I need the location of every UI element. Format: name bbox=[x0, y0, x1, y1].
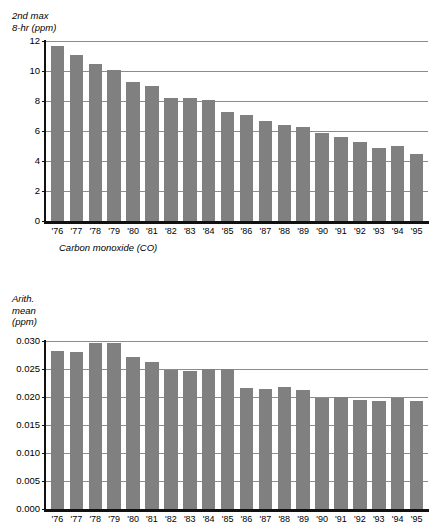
y-tick-label: 0.005 bbox=[7, 475, 40, 486]
chart1-series-caption: Carbon monoxide (CO) bbox=[59, 242, 157, 253]
bar bbox=[70, 55, 84, 222]
y-axis-spine bbox=[44, 340, 47, 511]
chart2-plot-area: 0.0000.0050.0100.0150.0200.0250.030'76'7… bbox=[46, 341, 428, 509]
y-tick-label: 4 bbox=[10, 155, 40, 166]
y-tick-label: 0.010 bbox=[7, 447, 40, 458]
bar bbox=[391, 398, 405, 509]
y-tick-label: 8 bbox=[10, 95, 40, 106]
bar bbox=[164, 370, 178, 509]
bar bbox=[107, 343, 121, 509]
bar bbox=[51, 351, 65, 509]
y-tick-label: 0.015 bbox=[7, 419, 40, 430]
bar bbox=[126, 357, 140, 509]
bar bbox=[126, 82, 140, 222]
gridline bbox=[46, 101, 428, 102]
bar bbox=[145, 86, 159, 221]
y-tick-label: 0.020 bbox=[7, 391, 40, 402]
gridline bbox=[46, 191, 428, 192]
bar bbox=[296, 390, 310, 509]
bar bbox=[391, 146, 405, 221]
bar bbox=[89, 64, 103, 221]
gridline bbox=[46, 425, 428, 426]
gridline bbox=[46, 71, 428, 72]
bar bbox=[372, 401, 386, 509]
bar bbox=[410, 154, 424, 222]
bar bbox=[353, 142, 367, 221]
chart1-plot-area: 024681012'76'77'78'79'80'81'82'83'84'85'… bbox=[46, 41, 428, 221]
gridline bbox=[46, 341, 428, 342]
bar bbox=[315, 398, 329, 509]
bar bbox=[51, 46, 65, 221]
y-axis-spine bbox=[44, 40, 47, 223]
bar bbox=[221, 112, 235, 222]
bar bbox=[240, 115, 254, 222]
bar bbox=[278, 387, 292, 509]
x-axis-spine bbox=[44, 221, 429, 224]
y-tick-label: 12 bbox=[10, 35, 40, 46]
bar bbox=[353, 400, 367, 509]
bar bbox=[240, 388, 254, 509]
bar bbox=[70, 352, 84, 509]
chart1-y-axis-title: 2nd max 8-hr (ppm) bbox=[12, 10, 102, 33]
gridline bbox=[46, 369, 428, 370]
bar bbox=[202, 369, 216, 509]
y-tick-label: 0.030 bbox=[7, 335, 40, 346]
x-tick-label: '95 bbox=[406, 514, 428, 524]
bar bbox=[183, 98, 197, 221]
gridline bbox=[46, 453, 428, 454]
bar bbox=[259, 389, 273, 509]
bar bbox=[164, 98, 178, 221]
y-tick-label: 2 bbox=[10, 185, 40, 196]
gridline bbox=[46, 131, 428, 132]
bar bbox=[278, 125, 292, 221]
gridline bbox=[46, 41, 428, 42]
bar bbox=[410, 401, 424, 509]
gridline bbox=[46, 161, 428, 162]
bar bbox=[259, 121, 273, 222]
gridline bbox=[46, 397, 428, 398]
y-tick-label: 0 bbox=[10, 215, 40, 226]
bar bbox=[221, 369, 235, 509]
bar bbox=[334, 137, 348, 221]
bar bbox=[372, 148, 386, 222]
y-tick-label: 0.000 bbox=[7, 503, 40, 514]
bar bbox=[89, 343, 103, 509]
bar bbox=[145, 362, 159, 509]
chart2-y-axis-title: Arith. mean (ppm) bbox=[12, 293, 102, 328]
bar bbox=[296, 127, 310, 222]
y-tick-label: 10 bbox=[10, 65, 40, 76]
y-tick-label: 0.025 bbox=[7, 363, 40, 374]
bar bbox=[107, 70, 121, 221]
y-tick-label: 6 bbox=[10, 125, 40, 136]
gridline bbox=[46, 481, 428, 482]
bar bbox=[202, 100, 216, 222]
x-tick-label: '95 bbox=[406, 226, 428, 236]
x-axis-spine bbox=[44, 509, 429, 512]
bar bbox=[183, 371, 197, 509]
bar bbox=[334, 397, 348, 509]
bar bbox=[315, 133, 329, 222]
